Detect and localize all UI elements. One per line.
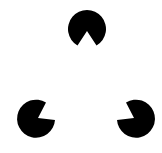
kanizsa-figure [0, 0, 162, 153]
